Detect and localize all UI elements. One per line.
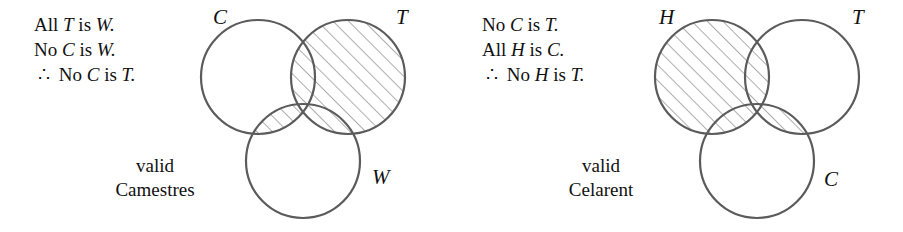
circle-c [700, 104, 814, 218]
venn-diagram-camestres: C T W [0, 0, 452, 232]
circle-label-t: T [396, 5, 409, 29]
circle-label-c: C [824, 167, 839, 191]
circle-label-h: H [658, 5, 676, 29]
circle-label-t: T [852, 5, 865, 29]
venn-diagram-celarent: H T C [452, 0, 903, 232]
circle-w [246, 104, 360, 218]
syllogism-panel-camestres: All T is W. No C is W. ∴ No C is T. vali… [0, 0, 452, 232]
figure-canvas: All T is W. No C is W. ∴ No C is T. vali… [0, 0, 903, 232]
syllogism-panel-celarent: No C is T. All H is C. ∴ No H is T. vali… [452, 0, 903, 232]
circle-label-w: W [372, 165, 392, 189]
circle-label-c: C [213, 5, 228, 29]
